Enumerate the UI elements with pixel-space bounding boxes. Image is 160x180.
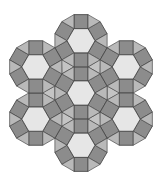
rosettes-layer <box>10 15 153 172</box>
rosette <box>10 93 62 145</box>
square-tile <box>74 67 88 81</box>
square-tile <box>119 93 133 107</box>
square-tile <box>74 15 88 29</box>
rosette <box>100 93 152 145</box>
square-tile <box>119 41 133 55</box>
rosette <box>100 41 152 93</box>
square-tile <box>74 53 88 67</box>
rosette <box>55 15 107 67</box>
rosette <box>10 41 62 93</box>
square-tile <box>29 79 43 93</box>
square-tile <box>119 79 133 93</box>
square-tile <box>74 157 88 171</box>
square-tile <box>119 131 133 145</box>
tiling-diagram <box>0 0 160 180</box>
square-tile <box>74 119 88 133</box>
square-tile <box>29 93 43 107</box>
square-tile <box>74 105 88 119</box>
rosette <box>55 67 107 119</box>
square-tile <box>29 131 43 145</box>
square-tile <box>29 41 43 55</box>
rosette <box>55 119 107 171</box>
